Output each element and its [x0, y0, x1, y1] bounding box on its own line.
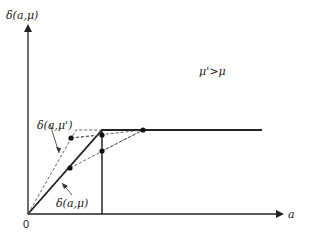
condition-label: μ'>μ [199, 66, 226, 77]
x-axis-label: a [288, 209, 295, 220]
y-axis-label: δ(a,μ) [6, 10, 38, 21]
leader-mu-arrowhead [62, 183, 68, 189]
dashed-chord-1 [70, 130, 143, 168]
point-threshold-upper [99, 132, 104, 137]
origin-label: 0 [23, 219, 29, 230]
point-threshold-lower [99, 148, 104, 153]
diagram-canvas [0, 0, 310, 236]
curve-label-mu-prime: δ(a,μ') [37, 120, 72, 131]
point-mu-prime [68, 135, 73, 140]
point-plateau [140, 127, 145, 132]
curve-label-mu: δ(a,μ) [56, 198, 88, 209]
point-mu [67, 165, 72, 170]
